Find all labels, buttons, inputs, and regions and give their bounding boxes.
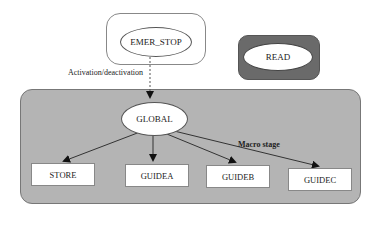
guidea-label: GUIDEA	[141, 171, 174, 181]
edge-to-store	[64, 132, 140, 161]
global-node: GLOBAL	[121, 102, 188, 136]
guidec-node: GUIDEC	[288, 168, 352, 191]
global-label: GLOBAL	[136, 114, 173, 124]
guidea-node: GUIDEA	[125, 164, 189, 187]
guideb-label: GUIDEB	[222, 172, 254, 182]
macro-stage-label: Macro stage	[238, 140, 280, 149]
store-label: STORE	[50, 170, 77, 180]
guideb-node: GUIDEB	[206, 165, 270, 188]
activation-edge-label: Activation/deactivation	[68, 68, 143, 77]
store-node: STORE	[31, 163, 95, 186]
guidec-label: GUIDEC	[304, 175, 336, 185]
